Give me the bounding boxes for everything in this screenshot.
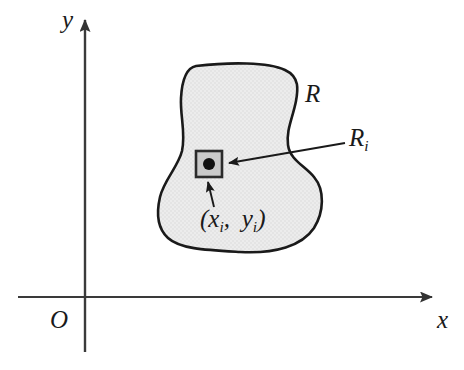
sample-point-label: (xi, yi) <box>200 205 266 236</box>
figure-svg <box>0 0 464 370</box>
subregion-label-base: R <box>349 124 364 151</box>
subregion-label-subscript: i <box>364 137 368 154</box>
y-axis-label: y <box>62 6 73 34</box>
sample-point-y: y <box>242 205 253 232</box>
sample-point-comma: , <box>224 205 236 232</box>
sample-point-dot <box>203 158 215 170</box>
sample-point-close-paren: ) <box>257 205 265 232</box>
figure-canvas: y x O R Ri (xi, yi) <box>0 0 464 370</box>
region-label: R <box>305 80 320 108</box>
subregion-label: Ri <box>349 124 369 155</box>
origin-label: O <box>50 306 68 334</box>
x-axis-label: x <box>437 306 448 334</box>
sample-point-x: x <box>208 205 219 232</box>
